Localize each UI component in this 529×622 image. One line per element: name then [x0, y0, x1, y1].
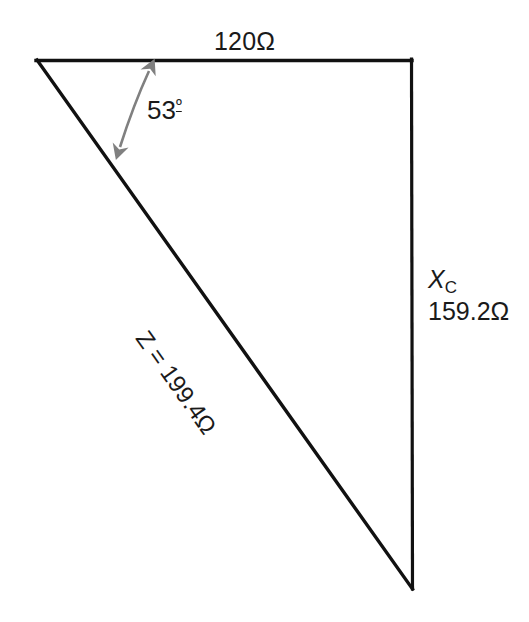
reactance-value-label: 159.2Ω	[428, 298, 509, 324]
angle-arc	[120, 71, 149, 147]
angle-value: 53	[147, 95, 176, 125]
reactance-symbol-x: X	[428, 265, 445, 293]
resistance-label: 120Ω	[214, 28, 275, 54]
triangle-side-reactance	[412, 59, 413, 589]
triangle-side-impedance	[37, 60, 413, 589]
reactance-label-group: XC 159.2Ω	[428, 266, 509, 324]
degree-icon: º	[176, 96, 182, 113]
angle-label: 53º	[147, 97, 182, 124]
impedance-triangle-diagram: 120Ω XC 159.2Ω Z = 199.4Ω 53º	[0, 0, 529, 622]
reactance-symbol-label: XC	[428, 266, 509, 297]
reactance-subscript-c: C	[445, 278, 457, 297]
